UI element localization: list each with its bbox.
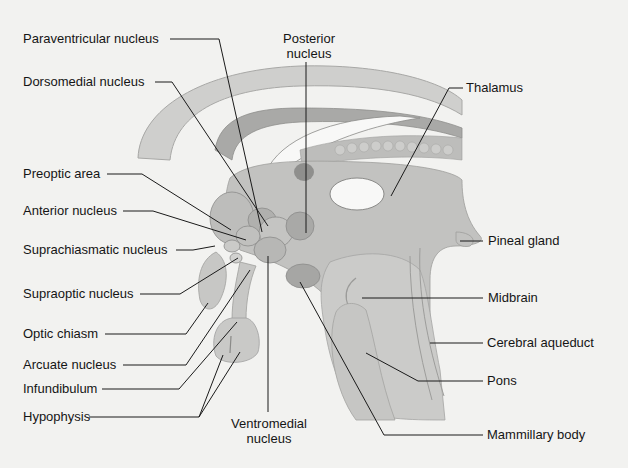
label-pons: Pons — [487, 373, 517, 388]
label-anterior-nucleus: Anterior nucleus — [23, 203, 117, 218]
label-cerebral-aqueduct: Cerebral aqueduct — [487, 335, 594, 350]
label-supraoptic-nucleus: Supraoptic nucleus — [23, 286, 134, 301]
hypothalamus-diagram: Paraventricular nucleus Posterior nucleu… — [0, 0, 628, 468]
interthalamic-adhesion — [330, 178, 384, 210]
hypophysis-shape — [214, 318, 260, 362]
label-posterior-line2: nucleus — [279, 46, 339, 61]
label-posterior-nucleus: Posterior nucleus — [279, 31, 339, 61]
label-hypophysis: Hypophysis — [23, 409, 90, 424]
label-paraventricular-nucleus: Paraventricular nucleus — [23, 31, 159, 46]
optic-chiasm-shape — [199, 252, 227, 309]
label-dorsomedial-nucleus: Dorsomedial nucleus — [23, 74, 144, 89]
label-suprachiasmatic-nucleus: Suprachiasmatic nucleus — [23, 242, 168, 257]
label-mammillary-body: Mammillary body — [487, 427, 585, 442]
label-optic-chiasm: Optic chiasm — [23, 326, 98, 341]
label-pineal-gland: Pineal gland — [488, 233, 560, 248]
label-ventromedial-nucleus: Ventromedial nucleus — [225, 416, 313, 446]
label-thalamus: Thalamus — [466, 80, 523, 95]
label-preoptic-area: Preoptic area — [23, 166, 100, 181]
label-posterior-line1: Posterior — [279, 31, 339, 46]
label-infundibulum: Infundibulum — [23, 381, 97, 396]
label-ventromedial-line2: nucleus — [225, 431, 313, 446]
label-arcuate-nucleus: Arcuate nucleus — [23, 357, 116, 372]
interventricular-foramen — [294, 163, 314, 181]
label-midbrain: Midbrain — [488, 290, 538, 305]
label-ventromedial-line1: Ventromedial — [225, 416, 313, 431]
